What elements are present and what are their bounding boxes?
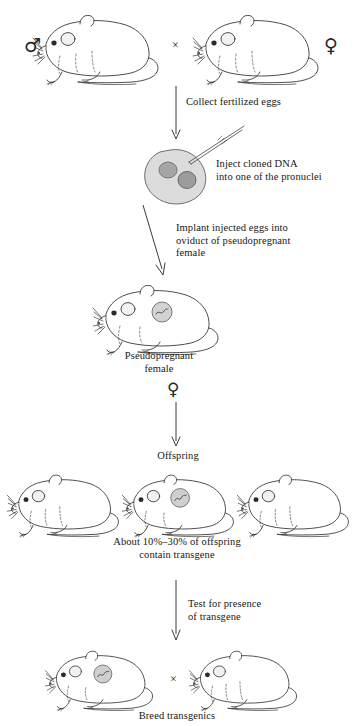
offspring-mouse-3 <box>240 472 352 538</box>
breeding-cross-symbol: × <box>170 672 177 687</box>
parent-cross-symbol: × <box>172 38 179 53</box>
breed-transgenics-label: Breed transgenics <box>112 710 242 723</box>
father-mouse <box>36 12 162 86</box>
pseudopregnant-female-symbol: ♀ <box>167 379 179 399</box>
implant-eggs-arrow <box>140 205 170 277</box>
pseudopregnant-mouse <box>96 282 222 356</box>
collect-eggs-label: Collect fertilized eggs <box>186 96 281 109</box>
mother-mouse <box>196 12 322 86</box>
implant-eggs-label: Implant injected eggs into oviduct of ps… <box>176 222 290 260</box>
offspring-label: Offspring <box>130 450 226 463</box>
transgene-marker <box>152 302 172 322</box>
transgenic-mouse-diagram: ♂ × <box>0 0 353 726</box>
transgene-percentage-label: About 10%–30% of offspring contain trans… <box>62 536 292 561</box>
transgene-marker <box>171 489 190 508</box>
offspring-mouse-2-transgenic <box>125 472 237 538</box>
breeding-mouse-transgenic <box>48 648 156 712</box>
collect-eggs-arrow <box>168 86 184 142</box>
offspring-mouse-1 <box>10 472 122 538</box>
transgene-marker <box>94 665 112 683</box>
pseudopregnant-female-label: Pseudopregnant female <box>104 350 214 375</box>
test-transgene-arrow <box>168 580 184 642</box>
female-symbol: ♀ <box>324 34 338 56</box>
inject-dna-label: Inject cloned DNA into one of the pronuc… <box>216 158 322 183</box>
breeding-mouse-partner <box>192 648 300 712</box>
offspring-arrow <box>168 402 184 448</box>
test-transgene-label: Test for presence of transgene <box>188 598 261 623</box>
